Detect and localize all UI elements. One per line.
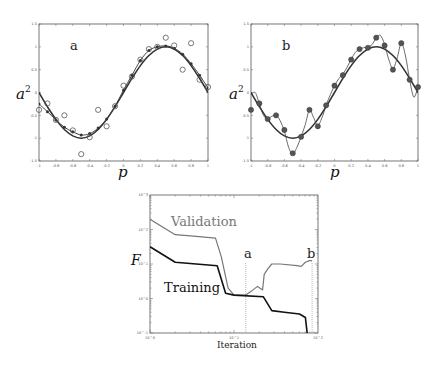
svg-text:1: 1 xyxy=(247,45,249,49)
svg-text:-1: -1 xyxy=(33,136,37,140)
svg-text:-0.6: -0.6 xyxy=(281,164,289,168)
svg-text:0.4: 0.4 xyxy=(154,164,160,168)
svg-text:-0.2: -0.2 xyxy=(103,164,110,168)
data-point xyxy=(105,117,108,120)
training-target-point xyxy=(104,124,109,129)
training-target-point xyxy=(189,41,194,46)
svg-text:0: 0 xyxy=(35,91,38,95)
svg-text:0.8: 0.8 xyxy=(188,164,194,168)
svg-text:0.6: 0.6 xyxy=(382,164,388,168)
data-point xyxy=(97,127,100,130)
training-target-point xyxy=(340,73,345,78)
data-point xyxy=(190,62,193,65)
training-target-point xyxy=(121,83,126,88)
training-target-point xyxy=(365,45,370,50)
annotation-a: a xyxy=(244,246,252,261)
x-axis-label: Iteration xyxy=(217,340,257,350)
svg-text:10^0: 10^0 xyxy=(138,297,149,301)
svg-text:0.2: 0.2 xyxy=(138,164,144,168)
annotation-b: b xyxy=(307,246,315,261)
svg-text:-1.5: -1.5 xyxy=(242,159,249,163)
y-axis-label: a2 xyxy=(16,84,31,103)
training-target-point xyxy=(79,152,84,157)
training-target-point xyxy=(315,124,320,129)
training-target-point xyxy=(390,67,395,72)
svg-text:0.6: 0.6 xyxy=(171,164,177,168)
data-point xyxy=(181,53,184,56)
plot-panel-a: -1-0.8-0.6-0.4-0.200.20.40.60.811.510.50… xyxy=(16,22,211,181)
training-target-point xyxy=(382,43,387,48)
data-point xyxy=(63,126,66,129)
svg-text:-0.8: -0.8 xyxy=(264,164,272,168)
svg-text:-0.4: -0.4 xyxy=(298,164,306,168)
data-point xyxy=(80,133,83,136)
plot-panel-b: -1-0.8-0.6-0.4-0.200.20.40.60.811.510.50… xyxy=(229,22,421,181)
x-axis-label: p xyxy=(330,163,340,181)
training-target-point xyxy=(265,116,270,121)
svg-text:0.5: 0.5 xyxy=(31,68,37,72)
svg-text:10^3: 10^3 xyxy=(138,193,148,197)
training-target-point xyxy=(248,107,253,112)
training-target-point xyxy=(62,113,67,118)
svg-text:0.5: 0.5 xyxy=(243,68,249,72)
data-point xyxy=(164,44,167,47)
training-target-point xyxy=(399,41,404,46)
x-axis-label: p xyxy=(118,163,128,181)
training-target-point xyxy=(407,77,412,82)
svg-text:-1: -1 xyxy=(249,164,253,168)
training-target-point xyxy=(349,57,354,62)
svg-text:1: 1 xyxy=(417,164,419,168)
svg-text:10^0: 10^0 xyxy=(145,336,156,340)
curves xyxy=(248,35,420,156)
training-target-point xyxy=(257,101,262,106)
training-target-point xyxy=(282,127,287,132)
data-point xyxy=(114,105,117,108)
overfit-response-curve xyxy=(251,35,418,154)
svg-text:-1.5: -1.5 xyxy=(30,159,37,163)
y-axis-label: a2 xyxy=(229,84,244,103)
data-point xyxy=(54,118,57,121)
training-target-point xyxy=(357,47,362,52)
svg-text:1.5: 1.5 xyxy=(31,22,37,26)
training-target-point xyxy=(96,107,101,112)
training-target-point xyxy=(324,103,329,108)
svg-text:-0.4: -0.4 xyxy=(86,164,94,168)
training-target-point xyxy=(290,151,295,156)
svg-text:1: 1 xyxy=(207,164,209,168)
panel-label-b: b xyxy=(282,38,290,53)
svg-text:10^-1: 10^-1 xyxy=(137,331,148,335)
data-point xyxy=(198,74,201,77)
training-label: Training xyxy=(164,280,220,295)
svg-text:0.8: 0.8 xyxy=(398,164,404,168)
target-curve xyxy=(251,47,418,138)
svg-text:-0.8: -0.8 xyxy=(52,164,60,168)
svg-text:-0.5: -0.5 xyxy=(30,114,37,118)
svg-text:-1: -1 xyxy=(245,136,249,140)
training-target-point xyxy=(415,84,420,89)
training-target-point xyxy=(374,35,379,40)
svg-text:-0.5: -0.5 xyxy=(242,114,249,118)
target-curve xyxy=(39,47,208,138)
data-point xyxy=(156,45,159,48)
svg-text:1: 1 xyxy=(35,45,37,49)
svg-text:-0.6: -0.6 xyxy=(69,164,77,168)
plot-panel-error-curves: 10^010^110^210^310^210^110^010^-1 Valida… xyxy=(130,193,323,354)
training-target-point xyxy=(273,113,278,118)
figure: -1-0.8-0.6-0.4-0.200.20.40.60.811.510.50… xyxy=(0,0,438,366)
validation-label: Validation xyxy=(170,214,238,229)
training-target-point xyxy=(332,83,337,88)
data-point xyxy=(46,110,49,113)
training-target-point xyxy=(163,35,168,40)
training-target-point xyxy=(299,134,304,139)
svg-text:10^2: 10^2 xyxy=(313,336,323,340)
svg-text:-1: -1 xyxy=(37,164,41,168)
svg-text:0: 0 xyxy=(247,91,250,95)
svg-text:0.4: 0.4 xyxy=(365,164,371,168)
training-target-point xyxy=(307,107,312,112)
panel-label-a: a xyxy=(70,38,78,53)
y-axis-label: F xyxy=(130,252,142,268)
curves xyxy=(36,35,210,157)
data-point xyxy=(122,89,125,92)
ticks: -1-0.8-0.6-0.4-0.200.20.40.60.811.510.50… xyxy=(30,22,209,168)
svg-text:-0.2: -0.2 xyxy=(314,164,321,168)
